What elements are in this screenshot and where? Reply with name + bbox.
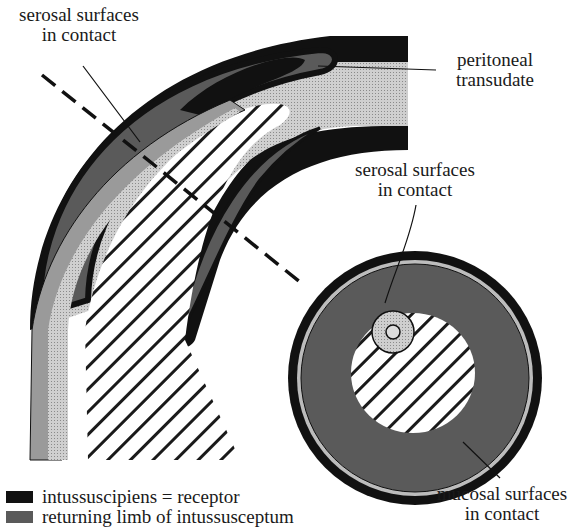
legend-item-returning-limb: returning limb of intussusceptum	[6, 507, 294, 527]
label-peritoneal-transudate: peritoneal transudate	[440, 50, 550, 90]
cross-section-lumen	[386, 325, 400, 339]
legend-swatch-medium	[6, 511, 33, 523]
legend-item-receptor: intussuscipiens = receptor	[6, 487, 240, 507]
label-serosal-cross: serosal surfaces in contact	[340, 160, 490, 200]
legend-label: returning limb of intussusceptum	[42, 507, 294, 527]
legend-label: intussuscipiens = receptor	[42, 487, 240, 507]
legend-swatch-dark	[6, 491, 33, 503]
label-mucosal: mucosal surfaces in contact	[422, 484, 582, 524]
label-serosal-top: serosal surfaces in contact	[4, 5, 154, 45]
